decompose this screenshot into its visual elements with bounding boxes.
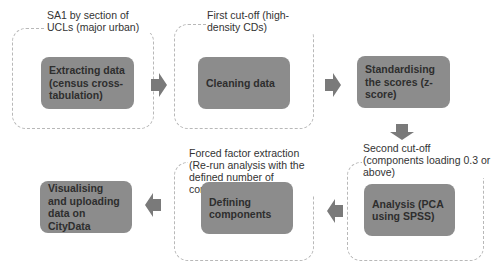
step-defining-components: Defining components	[201, 182, 293, 234]
group-caption-sa1: SA1 by section of UCLs (major urban)	[46, 9, 156, 33]
group-caption-first-cutoff: First cut-off (high-density CDs)	[206, 9, 316, 33]
arrow-right-icon	[151, 73, 167, 97]
arrow-down-icon	[390, 124, 414, 140]
arrow-left-icon	[327, 199, 343, 223]
step-visualising-uploading: Visualising and uploading data on CityDa…	[40, 181, 132, 233]
arrow-left-icon	[145, 193, 161, 217]
step-extracting-data: Extracting data (census cross-tabulation…	[41, 57, 134, 109]
arrow-right-icon	[325, 73, 341, 97]
step-analysis-pca: Analysis (PCA using SPSS)	[364, 184, 455, 236]
step-standardising-scores: Standardising the scores (z-score)	[357, 56, 450, 108]
group-caption-second-cutoff: Second cut-off (components loading 0.3 o…	[362, 142, 493, 178]
step-cleaning-data: Cleaning data	[198, 57, 290, 109]
